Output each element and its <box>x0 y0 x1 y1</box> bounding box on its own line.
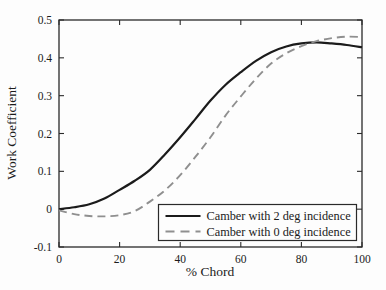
y-axis-label: Work Coefficient <box>4 86 19 180</box>
legend-entry-label: Camber with 2 deg incidence <box>207 209 352 223</box>
chart-canvas: 020406080100-0.100.10.20.30.40.5 % Chord… <box>0 0 386 290</box>
series-line-camber-0deg <box>59 37 362 217</box>
x-tick-label: 60 <box>235 253 247 265</box>
x-tick-label: 40 <box>174 253 186 265</box>
x-tick-label: 20 <box>114 253 126 265</box>
y-tick-label: 0 <box>46 203 52 215</box>
y-tick-label: 0.5 <box>38 14 53 26</box>
y-tick-label: 0.3 <box>38 90 53 102</box>
y-tick-label: -0.1 <box>34 241 52 253</box>
y-tick-label: 0.2 <box>38 128 53 140</box>
y-tick-label: 0.4 <box>38 52 53 64</box>
series-line-camber-2deg <box>59 42 362 209</box>
x-tick-label: 80 <box>296 253 308 265</box>
legend-entry-label: Camber with 0 deg incidence <box>207 225 352 239</box>
work-coefficient-figure: 020406080100-0.100.10.20.30.40.5 % Chord… <box>0 0 386 290</box>
x-tick-label: 100 <box>353 253 371 265</box>
y-tick-label: 0.1 <box>38 165 53 177</box>
x-tick-label: 0 <box>56 253 62 265</box>
legend: Camber with 2 deg incidenceCamber with 0… <box>159 205 357 241</box>
x-axis-label: % Chord <box>186 264 235 279</box>
